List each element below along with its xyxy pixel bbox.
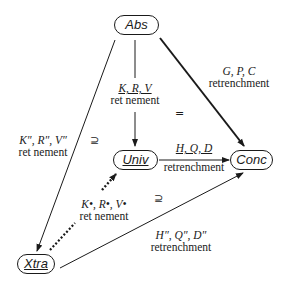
label-abs-conc-relation: G, P, C bbox=[200, 65, 278, 77]
supseteq-symbol-left: ⊇ bbox=[90, 134, 99, 147]
label-xtra-univ-kind: ret nement bbox=[72, 210, 136, 222]
node-conc-label: Conc bbox=[236, 152, 266, 167]
edge-abs-conc bbox=[160, 38, 244, 146]
label-xtra-conc: H″, Q″, D″ retrenchment bbox=[142, 229, 220, 253]
node-univ[interactable]: Univ bbox=[113, 150, 158, 170]
edge-xtra-univ-lower bbox=[50, 223, 75, 250]
equals-symbol: = bbox=[175, 107, 184, 120]
label-abs-univ-relation: K, R, V bbox=[103, 82, 167, 94]
label-univ-conc: H, Q, D retrenchment bbox=[158, 142, 230, 173]
node-xtra[interactable]: Xtra bbox=[17, 254, 55, 274]
node-univ-label: Univ bbox=[122, 152, 148, 167]
label-xtra-univ: K•, R•, V• ret nement bbox=[72, 198, 136, 222]
supseteq-symbol-right: ⊇ bbox=[154, 192, 163, 205]
label-xtra-conc-relation: H″, Q″, D″ bbox=[142, 229, 220, 241]
node-conc[interactable]: Conc bbox=[230, 150, 273, 170]
label-abs-univ: K, R, V ret nement bbox=[103, 82, 167, 106]
label-univ-conc-relation: H, Q, D bbox=[158, 142, 230, 154]
label-xtra-univ-relation: K•, R•, V• bbox=[72, 198, 136, 210]
node-xtra-label: Xtra bbox=[24, 256, 48, 271]
label-abs-xtra-relation: K″, R″, V″ bbox=[12, 134, 74, 146]
label-abs-xtra-kind: ret nement bbox=[12, 146, 74, 158]
label-univ-conc-kind: retrenchment bbox=[158, 161, 230, 173]
label-abs-conc: G, P, C retrenchment bbox=[200, 65, 278, 89]
label-abs-xtra: K″, R″, V″ ret nement bbox=[12, 134, 74, 158]
node-abs-label: Abs bbox=[125, 17, 147, 32]
label-abs-univ-kind: ret nement bbox=[103, 94, 167, 106]
edge-xtra-univ-upper bbox=[102, 174, 116, 190]
node-abs[interactable]: Abs bbox=[114, 15, 159, 35]
label-xtra-conc-kind: retrenchment bbox=[142, 241, 220, 253]
label-abs-conc-kind: retrenchment bbox=[200, 77, 278, 89]
